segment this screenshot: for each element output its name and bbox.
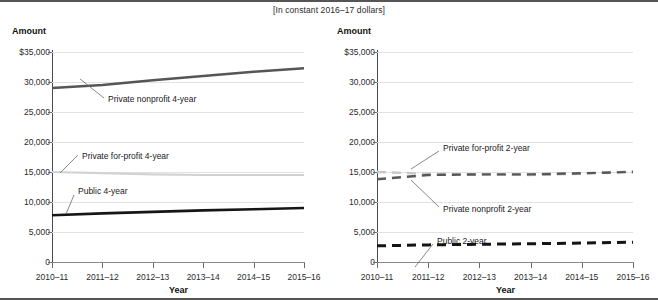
y-tick-labels-left: $35,00030,00025,00020,00015,00010,0005,0… <box>0 26 50 296</box>
plot-area-right: Private for-profit 2-yearPrivate nonprof… <box>377 52 633 262</box>
x-axis-area-left: Year 2010–112011–122012–132013–142014–15… <box>52 263 305 295</box>
y-tick-label: 20,000 <box>4 137 50 147</box>
series-annotation-private-nonprofit-2-year: Private nonprofit 2-year <box>443 204 531 214</box>
x-tick-mark <box>582 263 583 268</box>
y-tick-label: 10,000 <box>329 197 375 207</box>
y-tick-label: 0 <box>4 257 50 267</box>
x-tick-label: 2013–14 <box>514 272 547 282</box>
y-tick-label: 0 <box>329 257 375 267</box>
y-tick-label: 30,000 <box>4 77 50 87</box>
y-tick-label: $35,000 <box>4 47 50 57</box>
y-tick-label: 5,000 <box>4 227 50 237</box>
leader-line <box>66 195 74 214</box>
chart-page: [In constant 2016–17 dollars] Amount $35… <box>0 0 658 300</box>
series-annotation-private-for-profit-4-year: Private for-profit 4-year <box>82 151 169 161</box>
x-tick-label: 2010–11 <box>361 272 393 282</box>
x-tick-mark <box>203 263 204 268</box>
y-tick-label: 5,000 <box>329 227 375 237</box>
x-tick-mark <box>254 263 255 268</box>
x-tick-mark <box>633 263 634 268</box>
leader-line <box>411 180 439 207</box>
panel-two-year: Amount $35,00030,00025,00020,00015,00010… <box>329 26 658 296</box>
x-tick-label: 2012–13 <box>136 272 169 282</box>
x-axis-title-left: Year <box>52 285 305 295</box>
x-tick-mark <box>377 263 378 268</box>
x-tick-label: 2015–16 <box>616 272 649 282</box>
x-tick-label: 2013–14 <box>187 272 220 282</box>
x-tick-mark <box>52 263 53 268</box>
series-annotation-private-nonprofit-4-year: Private nonprofit 4-year <box>108 94 196 104</box>
series-annotation-public-4-year: Public 4-year <box>78 186 128 196</box>
x-tick-mark <box>304 263 305 268</box>
x-tick-label: 2010–11 <box>36 272 68 282</box>
y-tick-label: 20,000 <box>329 137 375 147</box>
series-annotation-public-2-year: Public 2-year <box>437 236 487 246</box>
series-canvas <box>377 52 633 262</box>
series-line-private-nonprofit-4-year <box>52 68 304 88</box>
y-tick-label: 10,000 <box>4 197 50 207</box>
leader-line <box>80 79 104 98</box>
chart-subtitle: [In constant 2016–17 dollars] <box>0 5 658 15</box>
x-tick-mark <box>479 263 480 268</box>
y-tick-label: 25,000 <box>4 107 50 117</box>
x-axis-area-right: Year 2010–112011–122012–132013–142014–15… <box>377 263 634 295</box>
leader-line <box>411 151 439 169</box>
x-tick-label: 2011–12 <box>86 272 118 282</box>
series-line-public-4-year <box>52 208 304 215</box>
panel-four-year: Amount $35,00030,00025,00020,00015,00010… <box>0 26 329 296</box>
top-rule <box>0 0 658 2</box>
x-tick-mark <box>428 263 429 268</box>
x-tick-label: 2014–15 <box>237 272 270 282</box>
x-tick-label: 2014–15 <box>565 272 598 282</box>
y-tick-label: 30,000 <box>329 77 375 87</box>
plot-area-left: Private nonprofit 4-yearPrivate for-prof… <box>52 52 304 262</box>
x-tick-label: 2015–16 <box>287 272 320 282</box>
y-tick-labels-right: $35,00030,00025,00020,00015,00010,0005,0… <box>329 26 375 296</box>
x-tick-label: 2012–13 <box>463 272 496 282</box>
x-tick-label: 2011–12 <box>412 272 444 282</box>
leader-line <box>60 155 78 173</box>
series-line-private-for-profit-4-year <box>52 172 304 175</box>
y-tick-label: $35,000 <box>329 47 375 57</box>
series-line-public-2-year <box>377 242 633 246</box>
y-tick-label: 15,000 <box>329 167 375 177</box>
y-tick-label: 15,000 <box>4 167 50 177</box>
x-tick-mark <box>531 263 532 268</box>
series-annotation-private-for-profit-2-year: Private for-profit 2-year <box>443 143 530 153</box>
x-axis-title-right: Year <box>377 285 634 295</box>
x-tick-mark <box>102 263 103 268</box>
x-tick-mark <box>153 263 154 268</box>
y-tick-label: 25,000 <box>329 107 375 117</box>
